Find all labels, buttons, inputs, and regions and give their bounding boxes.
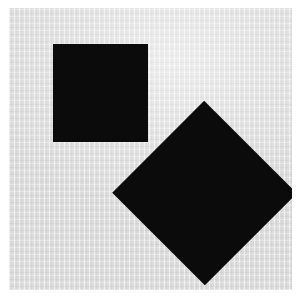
black-square-shape — [53, 44, 148, 142]
image-canvas — [9, 8, 292, 290]
figure-root — [0, 0, 303, 305]
